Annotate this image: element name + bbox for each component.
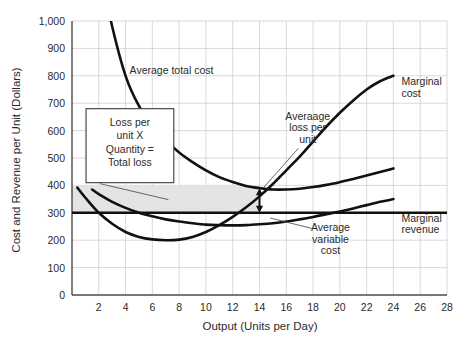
avg-loss-label-line-2: loss per — [289, 121, 326, 133]
marginal-cost-label-line-2: cost — [401, 87, 420, 99]
y-tick-label: 700 — [47, 97, 65, 109]
x-tick-label: 8 — [176, 301, 182, 313]
y-tick-label: 300 — [47, 207, 65, 219]
callout-line-4: Total loss — [108, 156, 152, 168]
x-tick-label: 20 — [334, 301, 346, 313]
avc-label-line-1: Average — [311, 221, 350, 233]
callout-line-2: unit X — [116, 129, 143, 141]
y-tick-label: 800 — [47, 70, 65, 82]
y-tick-label: 900 — [47, 42, 65, 54]
marginal-revenue-label-line-1: Marginal — [401, 212, 441, 224]
y-tick-label: 200 — [47, 234, 65, 246]
x-tick-label: 4 — [123, 301, 129, 313]
x-tick-label: 18 — [307, 301, 319, 313]
x-tick-label: 6 — [149, 301, 155, 313]
x-tick-label: 22 — [361, 301, 373, 313]
callout-line-3: Quantity = — [106, 143, 154, 155]
chart-canvas: 01002003004005006007008009001,000 246810… — [0, 0, 475, 340]
average-total-cost-label: Average total cost — [130, 64, 214, 76]
marginal-cost-label-line-1: Marginal — [401, 75, 441, 87]
economics-cost-revenue-chart: 01002003004005006007008009001,000 246810… — [0, 0, 475, 340]
avg-loss-label-line-3: unit — [299, 133, 316, 145]
y-tick-label: 400 — [47, 179, 65, 191]
marginal-revenue-label-line-2: revenue — [401, 223, 439, 235]
avc-label-line-3: cost — [321, 244, 340, 256]
y-tick-label: 500 — [47, 152, 65, 164]
x-tick-label: 2 — [96, 301, 102, 313]
avc-label-line-2: variable — [312, 233, 349, 245]
x-axis-title: Output (Units per Day) — [202, 320, 317, 332]
y-tick-label: 0 — [59, 289, 65, 301]
y-tick-label: 600 — [47, 125, 65, 137]
chart-background — [0, 0, 475, 340]
x-tick-label: 10 — [200, 301, 212, 313]
y-axis-title: Cost and Revenue per Unit (Dollars) — [10, 67, 22, 253]
x-tick-label: 14 — [254, 301, 266, 313]
marginal-revenue-label: Marginal revenue — [401, 212, 441, 236]
x-tick-label: 16 — [280, 301, 292, 313]
x-tick-label: 12 — [227, 301, 239, 313]
x-tick-label: 28 — [441, 301, 453, 313]
x-tick-label: 26 — [414, 301, 426, 313]
y-tick-label: 100 — [47, 262, 65, 274]
y-tick-label: 1,000 — [39, 15, 65, 27]
callout-line-1: Loss per — [110, 116, 151, 128]
x-tick-label: 24 — [388, 301, 400, 313]
avg-loss-label-line-1: Averaage — [285, 110, 330, 122]
